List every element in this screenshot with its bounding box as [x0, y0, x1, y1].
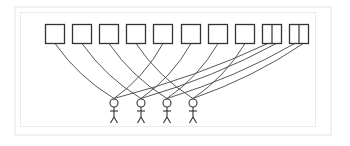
- connection-line: [114, 44, 163, 99]
- box-rect: [154, 25, 173, 44]
- task-box: [100, 25, 119, 44]
- person-icon: [163, 99, 171, 123]
- person-leg: [190, 117, 194, 123]
- person-head: [137, 99, 145, 107]
- task-box: [46, 25, 65, 44]
- task-box: [73, 25, 92, 44]
- connection-line: [141, 44, 276, 99]
- box-rect: [182, 25, 201, 44]
- task-box: [154, 25, 173, 44]
- box-rect: [127, 25, 146, 44]
- assignment-diagram: [0, 0, 350, 146]
- person-leg: [141, 117, 145, 123]
- box-rect: [73, 25, 92, 44]
- person-icon: [189, 99, 197, 123]
- task-box: [263, 25, 282, 44]
- task-box: [290, 25, 309, 44]
- task-box: [236, 25, 255, 44]
- box-rect: [209, 25, 228, 44]
- person-icon: [110, 99, 118, 123]
- person-leg: [114, 117, 118, 123]
- task-box: [209, 25, 228, 44]
- person-leg: [193, 117, 197, 123]
- person-leg: [138, 117, 142, 123]
- connection-line: [141, 44, 191, 99]
- person-leg: [111, 117, 115, 123]
- person-leg: [167, 117, 171, 123]
- connection-lines: [55, 44, 303, 99]
- person-leg: [164, 117, 168, 123]
- people-figures: [110, 99, 197, 123]
- person-icon: [137, 99, 145, 123]
- box-rect: [236, 25, 255, 44]
- person-head: [189, 99, 197, 107]
- person-head: [163, 99, 171, 107]
- person-head: [110, 99, 118, 107]
- task-boxes: [46, 25, 309, 44]
- box-rect: [46, 25, 65, 44]
- task-box: [182, 25, 201, 44]
- connection-line: [193, 44, 303, 99]
- box-rect: [100, 25, 119, 44]
- task-box: [127, 25, 146, 44]
